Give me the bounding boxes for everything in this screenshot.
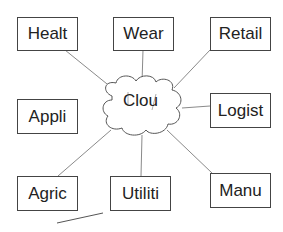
cloud-label: Clou [123,91,158,111]
line-healt [65,50,112,88]
node-label: Utiliti [122,184,159,204]
node-label: Healt [28,24,68,44]
line-logist [182,106,210,108]
node-logist: Logist [210,93,271,128]
node-label: Appli [29,107,67,127]
line-manu [167,130,212,173]
node-manu: Manu [210,173,271,208]
node-label: Agric [28,184,67,204]
node-agric: Agric [17,176,78,211]
stray-line [57,213,103,223]
node-appli: Appli [17,99,78,134]
node-wear: Wear [113,17,174,51]
node-label: Retail [219,24,262,44]
node-label: Logist [218,101,263,121]
line-utiliti [141,135,142,176]
line-retail [174,50,210,88]
node-label: Wear [123,24,163,44]
node-label: Manu [219,181,262,201]
node-retail: Retail [210,17,271,51]
line-agric [58,130,111,176]
node-healt: Healt [17,17,78,51]
node-utiliti: Utiliti [110,176,171,211]
